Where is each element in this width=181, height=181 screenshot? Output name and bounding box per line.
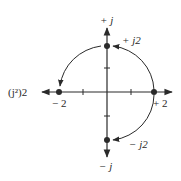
arc-plus2-to-plusj2 (113, 46, 154, 90)
point-plus-j2 (104, 43, 110, 49)
label-pos-2: + 2 (153, 97, 167, 109)
label-neg-j: − j (99, 160, 112, 172)
label-neg-j2: − j2 (129, 138, 148, 150)
point-minus-j2 (104, 137, 110, 143)
arc-plus2-to-minusj2 (113, 95, 154, 140)
label-pos-j2: + j2 (122, 34, 141, 46)
complex-plane-diagram: + j − j + j2 − j2 + 2 − 2 (j²)2 (0, 0, 181, 181)
point-plus-2 (151, 89, 157, 95)
label-j-squared-2: (j²)2 (8, 86, 27, 99)
label-neg-2: − 2 (52, 97, 66, 109)
label-pos-j: + j (100, 14, 113, 26)
arc-plusj2-to-minus2 (60, 46, 101, 86)
point-minus-2 (56, 89, 62, 95)
